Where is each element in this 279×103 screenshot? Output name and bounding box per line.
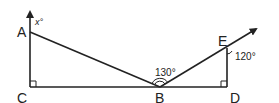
geometry-diagram: A C B D E x° 130° 120° [0,0,279,103]
label-point-c: C [17,90,27,103]
label-angle-x: x° [34,17,44,27]
right-angle-marker-c [30,81,36,87]
right-angle-marker-d [221,81,227,87]
label-point-b: B [155,90,164,103]
label-angle-120: 120° [235,51,256,62]
label-point-e: E [218,33,227,49]
label-point-a: A [17,24,27,40]
label-angle-130: 130° [155,67,176,78]
label-point-d: D [230,90,240,103]
segment-ab [30,32,160,87]
